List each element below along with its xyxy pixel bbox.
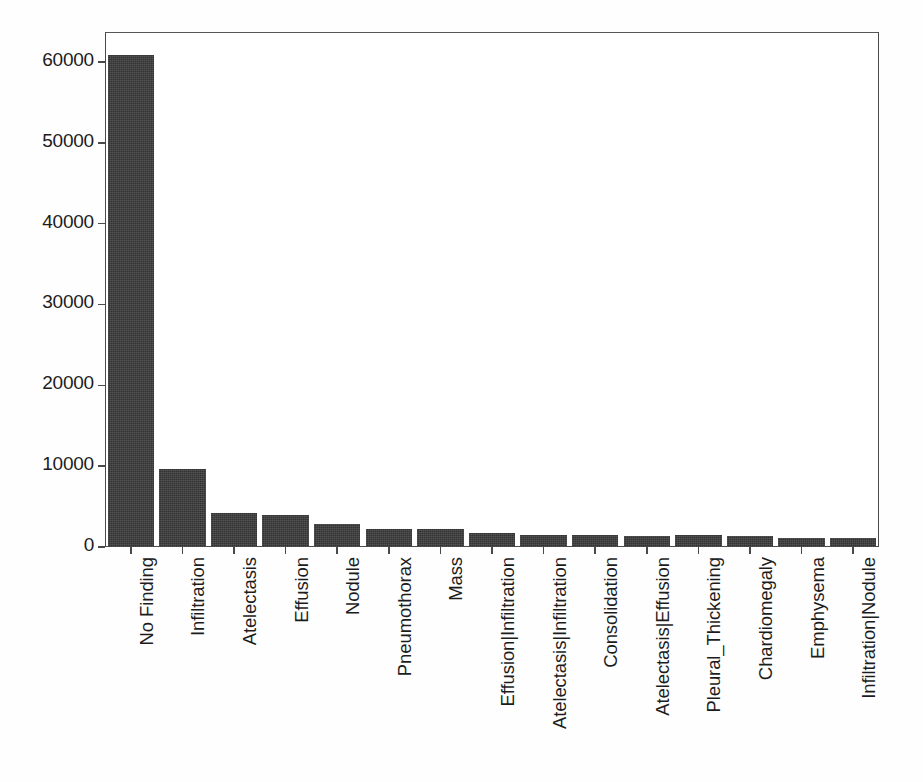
x-axis-tick-label: Pneumothorax — [389, 557, 408, 676]
bar — [520, 535, 566, 547]
y-axis-tick-mark — [98, 142, 105, 144]
x-axis-tick-label: Infiltration — [182, 557, 201, 636]
x-axis-tick-mark — [749, 547, 751, 554]
x-axis-tick-mark — [440, 547, 442, 554]
y-axis-tick-mark — [98, 304, 105, 306]
x-axis-tick-label: Effusion — [286, 557, 305, 623]
bar — [624, 536, 670, 547]
x-axis-tick-label: Effusion|Infiltration — [492, 557, 511, 706]
x-axis-tick-mark — [285, 547, 287, 554]
x-axis-tick-mark — [388, 547, 390, 554]
x-axis-tick-label: Atelectasis — [234, 557, 253, 645]
y-axis-tick-mark — [98, 61, 105, 63]
x-axis-tick-mark — [852, 547, 854, 554]
y-axis-tick-label: 10000 — [42, 453, 94, 475]
x-axis-tick-label: Atelectasis|Effusion — [647, 557, 666, 716]
bar — [211, 513, 257, 547]
x-axis-tick-label: No Finding — [131, 557, 150, 645]
x-axis-tick-mark — [130, 547, 132, 554]
y-axis-tick-label: 50000 — [42, 130, 94, 152]
x-axis-tick-label: Infiltration|Nodule — [853, 557, 872, 699]
x-axis-tick-marks — [105, 547, 879, 557]
y-axis-tick-label: 20000 — [42, 372, 94, 394]
y-axis-tick-mark — [98, 385, 105, 387]
y-axis-tick-label: 40000 — [42, 211, 94, 233]
x-axis-tick-mark — [543, 547, 545, 554]
x-axis-tick-label: Nodule — [337, 557, 356, 615]
x-axis-tick-mark — [698, 547, 700, 554]
bar — [469, 533, 515, 547]
bar — [417, 529, 463, 547]
bar — [778, 538, 824, 547]
x-axis-tick-label: Pleural_Thickening — [698, 557, 717, 713]
x-axis-labels: No FindingInfiltrationAtelectasisEffusio… — [105, 557, 879, 777]
x-axis-tick-mark — [801, 547, 803, 554]
bar — [366, 529, 412, 547]
bar — [314, 524, 360, 547]
y-axis-tick-label: 60000 — [42, 49, 94, 71]
bar-series — [105, 32, 879, 547]
x-axis-tick-mark — [646, 547, 648, 554]
y-axis-tick-mark — [98, 546, 105, 548]
bar — [830, 538, 876, 547]
bar — [675, 535, 721, 547]
x-axis-tick-mark — [336, 547, 338, 554]
bar — [108, 55, 154, 547]
x-axis-tick-label: Chardiomegaly — [750, 557, 769, 680]
y-axis-tick-label: 30000 — [42, 291, 94, 313]
bar — [159, 469, 205, 547]
x-axis-tick-label: Consolidation — [595, 557, 614, 668]
x-axis-tick-mark — [491, 547, 493, 554]
x-axis-tick-label: Emphysema — [802, 557, 821, 659]
x-axis-tick-mark — [594, 547, 596, 554]
y-axis-tick-label: 0 — [84, 534, 94, 556]
x-axis-tick-label: Atelectasis|Infiltration — [544, 557, 563, 729]
bar — [572, 535, 618, 547]
y-axis: 6000050000400003000020000100000 — [0, 0, 105, 560]
x-axis-tick-label: Mass — [440, 557, 459, 601]
bar-chart-figure: 6000050000400003000020000100000 No Findi… — [0, 0, 923, 782]
x-axis-tick-mark — [182, 547, 184, 554]
x-axis-tick-mark — [233, 547, 235, 554]
bar — [262, 515, 308, 547]
bar — [727, 536, 773, 547]
y-axis-tick-mark — [98, 465, 105, 467]
y-axis-tick-mark — [98, 223, 105, 225]
